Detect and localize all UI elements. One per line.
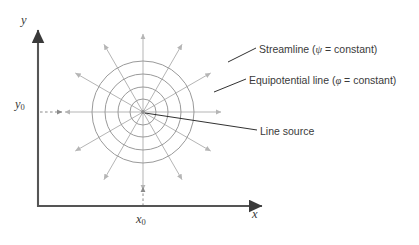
streamline-ray-210 [75, 112, 143, 151]
streamline-ray-150 [75, 73, 143, 112]
line-source-callout-label: Line source [260, 126, 314, 137]
streamline-callout-label: Streamline (ψ = constant) [259, 44, 377, 56]
y-origin-subscript: 0 [21, 102, 25, 112]
line-source-flow-net-figure: Streamline (ψ = constant) Equipotential … [0, 0, 419, 245]
streamline-ray-30 [143, 73, 211, 112]
line-source-point [141, 110, 145, 114]
x-origin-label: x0 [136, 213, 146, 226]
equipotential-callout-label: Equipotential line (φ = constant) [249, 75, 396, 87]
equipotential-text-prefix: Equipotential line ( [249, 74, 335, 86]
x-axis-label: x [252, 208, 258, 221]
streamline-ray-240 [104, 112, 143, 180]
leader-line-streamline [228, 48, 256, 62]
diagram-canvas [0, 0, 419, 245]
y-origin-label: y0 [15, 98, 25, 111]
streamline-text-suffix: = constant) [322, 43, 377, 55]
streamline-ray-300 [143, 112, 182, 180]
equipotential-text-suffix: = constant) [341, 74, 396, 86]
x-origin-subscript: 0 [142, 217, 146, 227]
streamline-ray-120 [104, 44, 143, 112]
streamline-ray-60 [143, 44, 182, 112]
y-axis-label: y [21, 14, 27, 27]
streamline-text-prefix: Streamline ( [259, 43, 316, 55]
leader-line-equipotential [214, 79, 246, 92]
leader-line-source [145, 113, 257, 130]
